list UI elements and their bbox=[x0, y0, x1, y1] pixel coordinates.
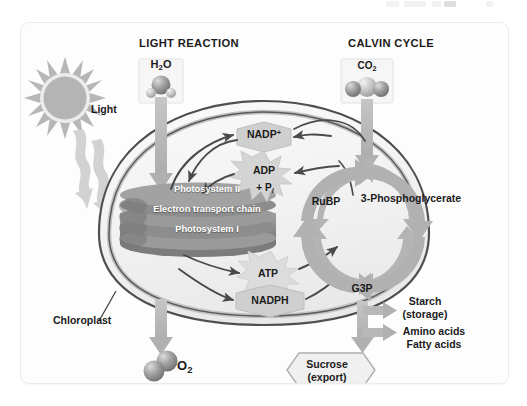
rubp-label: RuBP bbox=[312, 196, 341, 207]
photosynthesis-figure: LIGHT REACTION CALVIN CYCLE H2O CO2 Ligh… bbox=[21, 23, 508, 383]
starch-label-line2: (storage) bbox=[403, 309, 448, 320]
g3p-label: G3P bbox=[351, 283, 372, 294]
g3p-output-arrow bbox=[351, 301, 397, 353]
toolbar-ghost-item-5 bbox=[486, 1, 493, 7]
chloroplast-label: Chloroplast bbox=[53, 315, 111, 326]
atp-label: ATP bbox=[258, 268, 278, 279]
toolbar-ghost-item-1 bbox=[386, 1, 399, 7]
light-label: Light bbox=[91, 104, 117, 115]
starch-label-line1: Starch bbox=[409, 296, 442, 307]
three-phosphoglycerate-label: 3-Phosphoglycerate bbox=[361, 193, 461, 204]
screenshot-root: LIGHT REACTION CALVIN CYCLE H2O CO2 Ligh… bbox=[0, 0, 527, 406]
sucrose-label-line2: (export) bbox=[307, 372, 346, 383]
nadph-label: NADPH bbox=[251, 295, 288, 306]
oxygen-molecule bbox=[144, 351, 178, 382]
thylakoid-layer-photosystem-2: Photosystem II bbox=[174, 184, 240, 194]
truncated-toolbar-strip bbox=[0, 0, 527, 11]
diagram-card: LIGHT REACTION CALVIN CYCLE H2O CO2 Ligh… bbox=[20, 22, 509, 384]
toolbar-ghost-item-3 bbox=[432, 1, 441, 7]
nadp-plus-label: NADP+ bbox=[247, 129, 281, 140]
heading-light-reaction: LIGHT REACTION bbox=[139, 37, 239, 49]
toolbar-ghost-item-2 bbox=[404, 1, 426, 7]
adp-phosphate-label: + Pi bbox=[256, 183, 273, 194]
sun-icon bbox=[24, 57, 106, 139]
heading-calvin-cycle: CALVIN CYCLE bbox=[348, 37, 434, 49]
thylakoid-layer-electron-transport-chain: Electron transport chain bbox=[153, 204, 260, 214]
adp-label: ADP bbox=[253, 165, 275, 176]
oxygen-label: O2 bbox=[177, 359, 192, 373]
co2-label: CO2 bbox=[358, 61, 377, 72]
thylakoid-layer-photosystem-1: Photosystem I bbox=[175, 224, 239, 234]
fatty-acids-label: Fatty acids bbox=[407, 339, 462, 350]
water-label: H2O bbox=[151, 59, 172, 71]
toolbar-ghost-item-4 bbox=[444, 1, 456, 7]
amino-acids-label: Amino acids bbox=[403, 326, 465, 337]
sucrose-label-line1: Sucrose bbox=[306, 359, 347, 370]
